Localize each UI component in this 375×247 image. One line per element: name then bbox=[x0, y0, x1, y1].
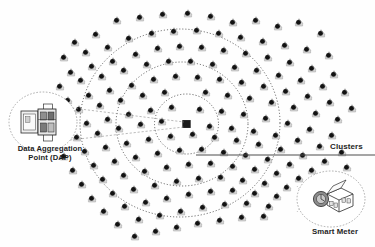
smart-meter-node bbox=[98, 73, 105, 80]
topology-svg bbox=[0, 0, 375, 247]
smart-meter-node bbox=[168, 104, 175, 111]
smart-meter-node bbox=[163, 164, 170, 171]
clusters-label: Clusters bbox=[330, 142, 374, 151]
smart-meter-node bbox=[83, 120, 90, 127]
smart-meter-node bbox=[265, 203, 272, 210]
smart-meter-node bbox=[173, 224, 180, 231]
smart-meter-node bbox=[125, 111, 132, 118]
smart-meter-node bbox=[246, 95, 253, 102]
smart-meter-node bbox=[316, 143, 323, 150]
diagram-canvas: Data Aggregation Point (DAP) Smart Meter… bbox=[0, 0, 375, 247]
smart-meter-node bbox=[67, 69, 74, 76]
smart-meter-node bbox=[196, 106, 203, 113]
smart-meter-node bbox=[255, 141, 262, 148]
smart-meter-node bbox=[286, 161, 293, 168]
smart-meter-node bbox=[229, 163, 236, 170]
smart-meter-node bbox=[252, 17, 259, 24]
smart-meter-node bbox=[237, 34, 244, 41]
smart-meter-node bbox=[198, 146, 205, 153]
smart-meter-node bbox=[229, 187, 236, 194]
smart-meter-node bbox=[274, 23, 281, 30]
smart-meter-node bbox=[111, 158, 118, 165]
smart-meter-node bbox=[172, 73, 179, 80]
smart-meter-node bbox=[154, 45, 161, 52]
smart-meter-node bbox=[277, 146, 284, 153]
smart-meter-node bbox=[253, 67, 260, 74]
smart-meter-node bbox=[135, 216, 142, 223]
smart-meter-node bbox=[163, 195, 170, 202]
smart-meter-node bbox=[264, 156, 271, 163]
smart-meter-node bbox=[161, 89, 168, 96]
smart-meter-node bbox=[221, 201, 228, 208]
smart-meter-node bbox=[73, 134, 80, 141]
smart-meter-node bbox=[207, 188, 214, 195]
smart-meter-node bbox=[187, 58, 194, 65]
smart-meter-node bbox=[121, 203, 128, 210]
smart-meter-node bbox=[114, 221, 121, 228]
smart-meter-node bbox=[92, 31, 99, 38]
smart-meter-node bbox=[326, 99, 333, 106]
smart-meter-node bbox=[185, 191, 192, 198]
smart-meter-node bbox=[238, 214, 245, 221]
smart-meter-node bbox=[96, 102, 103, 109]
smart-meter-node bbox=[99, 176, 106, 183]
smart-meter-node bbox=[136, 14, 143, 21]
smart-meter-node bbox=[151, 182, 158, 189]
smart-meter-callout-group bbox=[297, 171, 365, 227]
smart-meter-node bbox=[240, 111, 247, 118]
smart-meter-node bbox=[304, 93, 311, 100]
smart-meter-node bbox=[308, 167, 315, 174]
smart-meter-node bbox=[231, 64, 238, 71]
smart-meter-node bbox=[273, 170, 280, 177]
smart-meter-node bbox=[317, 30, 324, 37]
smart-meter-node bbox=[238, 79, 245, 86]
smart-meter-node bbox=[60, 54, 67, 61]
smart-meter-node bbox=[132, 154, 139, 161]
smart-meter-node bbox=[275, 72, 282, 79]
smart-meter-node bbox=[306, 126, 313, 133]
smart-meter-node bbox=[189, 131, 196, 138]
smart-meter-node bbox=[120, 172, 127, 179]
dap-label-line2: Point (DAP) bbox=[28, 153, 71, 162]
smart-meter-node bbox=[334, 116, 341, 123]
smart-meter-node bbox=[148, 30, 155, 37]
smart-meter-node bbox=[202, 89, 209, 96]
smart-meter-node bbox=[125, 35, 132, 42]
smart-meter-node bbox=[216, 217, 223, 224]
smart-meter-node bbox=[295, 175, 302, 182]
smart-meter-node bbox=[207, 160, 214, 167]
smart-meter-node bbox=[283, 184, 290, 191]
smart-meter-node bbox=[209, 61, 216, 68]
smart-meter-node bbox=[117, 97, 124, 104]
smart-meter-node bbox=[143, 61, 150, 68]
smart-meter-node bbox=[217, 174, 224, 181]
smart-meter-node bbox=[71, 39, 78, 46]
smart-meter-node bbox=[167, 133, 174, 140]
smart-meter-node bbox=[295, 19, 302, 26]
smart-meter-node bbox=[176, 43, 183, 50]
smart-meter-node bbox=[109, 190, 116, 197]
smart-meter-node bbox=[176, 147, 183, 154]
smart-meter-node bbox=[282, 88, 289, 95]
smart-meter-node bbox=[131, 233, 138, 240]
smart-meter-node bbox=[264, 54, 271, 61]
smart-meter-node bbox=[132, 51, 139, 58]
smart-meter-node bbox=[147, 107, 154, 114]
smart-meter-node bbox=[294, 137, 301, 144]
smart-meter-node bbox=[251, 166, 258, 173]
smart-meter-node bbox=[251, 190, 258, 197]
smart-meter-node bbox=[123, 140, 130, 147]
smart-meter-node bbox=[152, 228, 159, 235]
smart-meter-node bbox=[185, 161, 192, 168]
smart-meter-node bbox=[233, 137, 240, 144]
smart-meter-node bbox=[268, 99, 275, 106]
smart-meter-node bbox=[128, 82, 135, 89]
smart-meter-node bbox=[218, 108, 225, 115]
smart-meter-node bbox=[100, 208, 107, 215]
smart-meter-node bbox=[173, 178, 180, 185]
smart-meter-node bbox=[109, 58, 116, 65]
smart-meter-node bbox=[139, 92, 146, 99]
smart-meter-node bbox=[198, 44, 205, 51]
smart-meter-node bbox=[286, 59, 293, 66]
smart-meter-node bbox=[260, 213, 267, 220]
